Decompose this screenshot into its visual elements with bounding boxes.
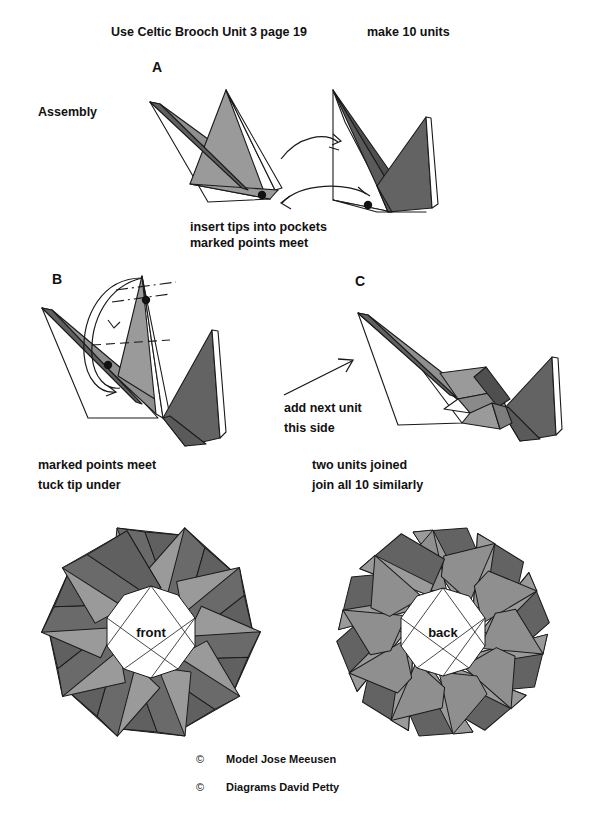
section-label-assembly: Assembly <box>38 104 97 121</box>
step-c-annotation-line-1: add next unit <box>284 400 362 417</box>
step-c-figure <box>340 295 590 445</box>
copyright-icon: © <box>196 752 204 767</box>
result-front-label: front <box>136 625 166 640</box>
result-back-label: back <box>428 625 458 640</box>
copyright-icon: © <box>196 780 204 795</box>
marked-point-right <box>364 201 372 209</box>
step-c-annotation-line-2: this side <box>284 420 335 437</box>
marked-point-lower <box>104 361 112 369</box>
step-c-caption-line-1: two units joined <box>312 457 407 474</box>
right-angle-mark <box>108 320 120 328</box>
step-c-pointer-arrow <box>280 355 370 400</box>
step-b-caption-line-2: tuck tip under <box>38 477 121 494</box>
step-b-caption-line-1: marked points meet <box>38 457 156 474</box>
page-title: Use Celtic Brooch Unit 3 page 19 <box>111 24 307 41</box>
motion-arrow-upper <box>281 134 341 159</box>
step-a-caption-line-2: marked points meet <box>190 235 308 252</box>
credit-diagrams-text: Diagrams David Petty <box>226 780 339 795</box>
diagram-page: Use Celtic Brooch Unit 3 page 19 make 10… <box>0 0 597 824</box>
credit-row-diagrams: © Diagrams David Petty <box>196 780 339 795</box>
credit-model-text: Model Jose Meeusen <box>226 752 336 767</box>
result-front-figure: front <box>8 508 294 756</box>
marked-point-upper <box>142 296 150 304</box>
result-back-figure: back <box>300 508 586 756</box>
units-note: make 10 units <box>367 24 450 41</box>
step-label-c: C <box>355 272 365 291</box>
step-a-caption-line-1: insert tips into pockets <box>190 219 327 236</box>
marked-point-left <box>258 191 266 199</box>
step-a-figure <box>130 62 500 217</box>
step-b-figure <box>30 268 280 453</box>
step-c-caption-line-2: join all 10 similarly <box>312 477 423 494</box>
credit-row-model: © Model Jose Meeusen <box>196 752 336 767</box>
